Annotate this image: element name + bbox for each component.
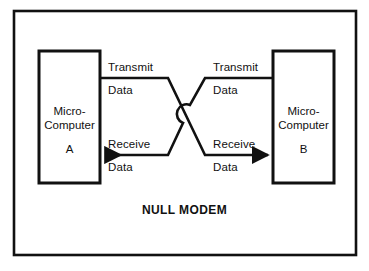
label-b-transmit-line1: Transmit — [213, 62, 258, 74]
label-a-transmit-line1: Transmit — [108, 62, 153, 74]
label-a-transmit-line2: Data — [108, 85, 133, 97]
device-a-name: Micro- Computer — [39, 105, 100, 132]
label-a-receive-line1: Receive — [108, 139, 150, 151]
device-a-designator: A — [39, 143, 100, 157]
label-a-receive-line2: Data — [108, 162, 133, 174]
device-b-name-line1: Micro- — [288, 105, 320, 117]
figure-title: NULL MODEM — [0, 203, 369, 217]
label-b-receive-line2: Data — [213, 162, 238, 174]
label-b-receive-line1: Receive — [213, 139, 255, 151]
device-a-name-line1: Micro- — [54, 105, 86, 117]
diagram-canvas — [0, 0, 369, 271]
device-a-name-line2: Computer — [44, 119, 95, 131]
null-modem-figure: Micro- Computer A Micro- Computer B Tran… — [0, 0, 369, 271]
device-b-name: Micro- Computer — [273, 105, 334, 132]
label-b-transmit-line2: Data — [213, 85, 238, 97]
device-b-designator: B — [273, 143, 334, 157]
device-b-name-line2: Computer — [278, 119, 329, 131]
